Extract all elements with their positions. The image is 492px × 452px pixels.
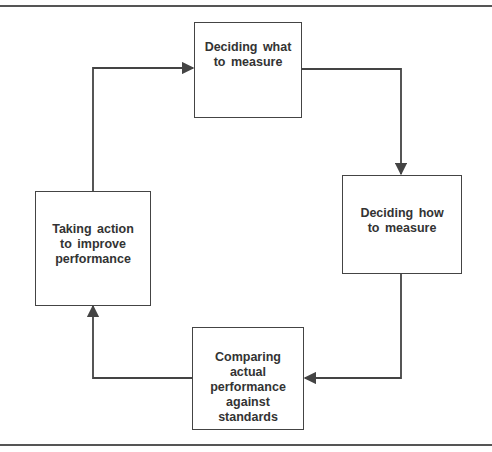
node-deciding-what-to-measure: Deciding what to measure xyxy=(194,22,302,118)
node-taking-action: Taking action to improve performance xyxy=(35,191,151,306)
arrow-what-to-how xyxy=(301,69,401,174)
arrow-compare-to-act xyxy=(93,306,192,378)
node-comparing-actual-performance: Comparing actual performance against sta… xyxy=(192,327,304,430)
node-deciding-how-to-measure: Deciding how to measure xyxy=(342,175,462,274)
node-label: Comparing actual performance against sta… xyxy=(196,350,300,429)
arrow-act-to-what xyxy=(93,68,193,191)
arrow-how-to-compare xyxy=(305,273,401,378)
node-label: Taking action to improve performance xyxy=(45,222,141,305)
node-label: Deciding what to measure xyxy=(203,40,293,117)
node-label: Deciding how to measure xyxy=(354,206,450,273)
